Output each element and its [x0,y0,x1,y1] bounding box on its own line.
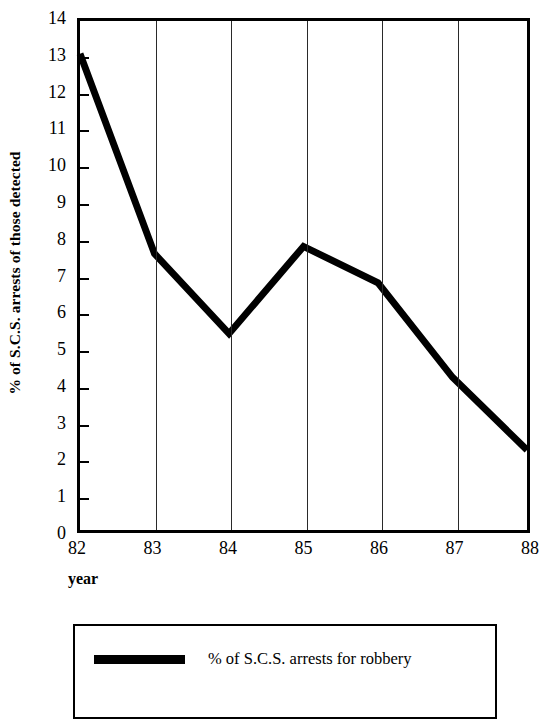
y-tick-label: 3 [57,414,66,432]
series-polyline [80,54,527,450]
y-axis-tick-labels: 01234567891011121314 [26,0,72,560]
y-axis-title-text: % of S.C.S. arrests of those detected [6,151,24,394]
y-tick-label: 1 [57,487,66,505]
y-tick-label: 12 [48,83,66,101]
y-tick-label: 13 [48,46,66,64]
y-tick-label: 11 [49,119,66,137]
x-tick-label: 85 [295,539,313,557]
y-tick-mark [80,278,89,280]
x-tick-label: 88 [521,539,539,557]
y-tick-label: 10 [48,156,66,174]
gridline-vertical [156,21,157,530]
x-tick-label: 82 [68,539,86,557]
x-tick-label: 86 [370,539,388,557]
gridline-vertical [307,21,308,530]
y-tick-label: 4 [57,377,66,395]
x-tick-label: 87 [446,539,464,557]
y-tick-label: 2 [57,450,66,468]
y-tick-label: 5 [57,340,66,358]
plot-area [77,18,530,533]
y-tick-mark [80,241,89,243]
legend-item: % of S.C.S. arrests for robbery [75,646,495,672]
gridline-vertical [458,21,459,530]
y-tick-mark [80,167,89,169]
y-tick-mark [80,425,89,427]
y-tick-label: 9 [57,193,66,211]
plot-inner [80,21,527,530]
legend: % of S.C.S. arrests for robbery [73,624,497,719]
x-tick-label: 84 [219,539,237,557]
y-tick-label: 8 [57,230,66,248]
y-tick-label: 7 [57,267,66,285]
data-series-line [80,21,527,530]
y-tick-mark [80,57,89,59]
y-tick-mark [80,461,89,463]
y-tick-label: 6 [57,303,66,321]
y-tick-mark [80,498,89,500]
x-axis-title: year [68,570,98,588]
y-tick-label: 14 [48,9,66,27]
x-axis-tick-labels: 82838485868788 [0,539,545,569]
y-tick-mark [80,388,89,390]
legend-line-swatch-icon [94,655,185,664]
y-tick-mark [80,204,89,206]
x-tick-label: 83 [144,539,162,557]
y-tick-mark [80,130,89,132]
y-tick-mark [80,351,89,353]
legend-item-label: % of S.C.S. arrests for robbery [208,649,411,669]
gridline-vertical [382,21,383,530]
gridline-vertical [231,21,232,530]
y-tick-mark [80,94,89,96]
y-tick-mark [80,314,89,316]
